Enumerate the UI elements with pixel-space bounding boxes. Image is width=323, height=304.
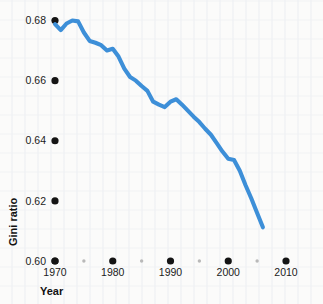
- y-tick-dot: [51, 77, 58, 84]
- gini-ratio-series-line: [55, 21, 263, 228]
- y-tick-label: 0.62: [26, 195, 47, 207]
- y-tick-label: 0.66: [26, 74, 47, 86]
- x-minor-tick-dot: [82, 259, 85, 262]
- x-tick-dot: [225, 257, 232, 264]
- x-minor-tick-dot: [140, 259, 143, 262]
- y-tick-label: 0.64: [26, 134, 47, 146]
- x-tick-dot: [51, 257, 58, 264]
- y-axis-title: Gini ratio: [7, 197, 19, 246]
- x-tick-label: 1970: [43, 266, 67, 278]
- x-minor-tick-dot: [198, 259, 201, 262]
- y-tick-dot: [51, 197, 58, 204]
- y-axis-tick-dots: [51, 17, 58, 265]
- y-axis-tick-labels: 0.600.620.640.660.68: [26, 14, 47, 267]
- x-axis-tick-labels: 19701980199020002010: [43, 266, 298, 278]
- y-tick-label: 0.68: [26, 14, 47, 26]
- y-tick-dot: [51, 137, 58, 144]
- x-tick-label: 2010: [274, 266, 298, 278]
- x-minor-tick-dot: [255, 259, 258, 262]
- x-tick-dot: [282, 257, 289, 264]
- y-tick-label: 0.60: [26, 255, 47, 267]
- gini-ratio-line-chart: 0.600.620.640.660.68 1970198019902000201…: [0, 0, 323, 304]
- x-tick-label: 1980: [101, 266, 125, 278]
- x-tick-label: 1990: [159, 266, 183, 278]
- chart-plot-area: 0.600.620.640.660.68 1970198019902000201…: [0, 0, 323, 304]
- x-axis-title: Year: [40, 285, 64, 297]
- x-tick-dot: [167, 257, 174, 264]
- x-axis-tick-dots: [51, 257, 289, 264]
- x-tick-label: 2000: [217, 266, 241, 278]
- x-tick-dot: [109, 257, 116, 264]
